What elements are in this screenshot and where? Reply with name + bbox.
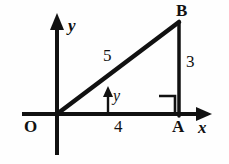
label-side-hypotenuse: 5	[103, 47, 112, 64]
right-angle-marker-icon	[159, 96, 175, 113]
label-side-vertical: 3	[186, 53, 195, 70]
label-point-o: O	[24, 118, 37, 135]
label-axis-x: x	[198, 119, 207, 136]
label-point-a: A	[172, 118, 184, 135]
label-point-b: B	[176, 2, 187, 19]
geometry-figure: B O A x y 5 3 4 y	[0, 0, 229, 164]
label-side-horizontal: 4	[114, 118, 123, 135]
label-angle-y: y	[113, 88, 120, 104]
y-axis-arrowhead-icon	[50, 13, 64, 30]
label-axis-y: y	[68, 17, 76, 34]
figure-canvas	[0, 0, 229, 164]
angle-arrow-head-icon	[103, 86, 113, 97]
